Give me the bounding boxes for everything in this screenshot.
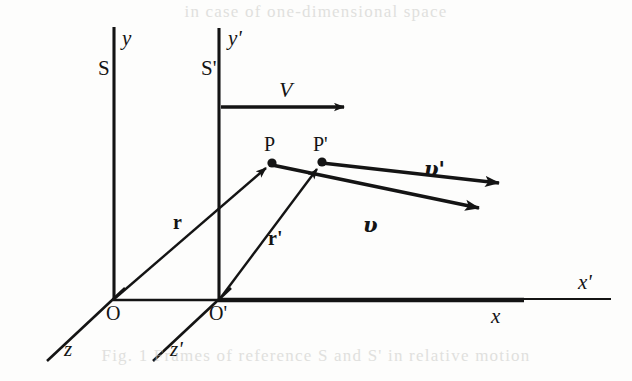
point-P-dot [267,158,276,167]
point-label-P-prime: P' [313,134,328,154]
axis-label-x-prime: x' [578,272,592,293]
origin-label-O: O [106,303,120,323]
vector-label-r-prime: r' [268,228,282,248]
frame-label-S-prime: S' [201,58,216,79]
reference-frames-diagram [0,0,632,381]
axis-label-y: y [122,28,131,49]
vector-label-v: υ [363,214,378,235]
vector-label-v-prime: υ' [424,158,445,179]
axis-label-y-prime: y' [228,28,242,49]
vector-label-V: V [279,79,292,101]
axis-label-z-prime: z' [170,339,183,360]
figure-container: in case of one-dimensional space [0,0,632,381]
position-vector-r-arrow [113,168,266,300]
point-P-prime-dot [317,157,326,166]
axis-label-x: x [491,306,500,327]
vector-label-r: r [173,212,182,232]
axis-label-z: z [64,339,72,360]
origin-label-O-prime: O' [209,303,227,323]
frame-label-S: S [98,58,110,79]
point-label-P: P [264,134,275,154]
